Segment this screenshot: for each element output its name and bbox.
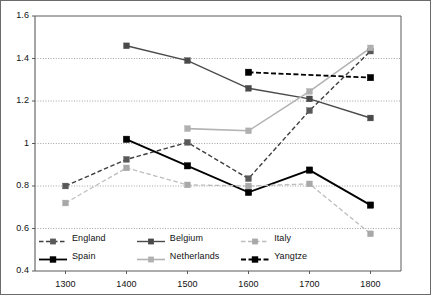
- data-point-italy-1700: [307, 181, 313, 187]
- legend-swatch-netherlands-icon: [137, 251, 165, 262]
- data-point-yangtze-1800: [367, 74, 373, 80]
- legend-label: Belgium: [170, 233, 203, 243]
- data-point-belgium-1600: [246, 85, 252, 91]
- data-point-netherlands-1700: [307, 89, 313, 95]
- legend-row: SpainNetherlandsYangtze: [39, 247, 339, 265]
- data-point-spain-1600: [245, 189, 251, 195]
- legend-item-netherlands[interactable]: Netherlands: [137, 251, 241, 262]
- legend-row: EnglandBelgiumItaly: [39, 229, 339, 247]
- legend-swatch-italy-icon: [241, 233, 269, 244]
- data-point-belgium-1400: [124, 43, 130, 49]
- legend-label: Spain: [72, 251, 96, 261]
- data-point-italy-1300: [63, 200, 69, 206]
- y-tick-label-1: 1: [3, 138, 29, 148]
- legend-item-spain[interactable]: Spain: [39, 251, 137, 262]
- data-point-spain-1700: [306, 167, 312, 173]
- data-point-italy-1600: [246, 183, 252, 189]
- data-point-netherlands-1500: [185, 126, 191, 132]
- x-tick-label-1400: 1400: [102, 279, 152, 289]
- legend-item-england[interactable]: England: [39, 233, 137, 244]
- data-point-netherlands-1800: [368, 45, 374, 51]
- series-line-italy: [66, 168, 371, 234]
- data-point-spain-1800: [367, 202, 373, 208]
- series-line-england: [66, 51, 371, 186]
- legend-swatch-belgium-icon: [137, 233, 165, 244]
- x-tick-label-1600: 1600: [224, 279, 274, 289]
- legend-label: Yangtze: [274, 251, 307, 261]
- data-point-spain-1400: [123, 136, 129, 142]
- legend-swatch-england-icon: [39, 233, 67, 244]
- y-tick-label-1.2: 1.2: [3, 95, 29, 105]
- x-tick-label-1500: 1500: [163, 279, 213, 289]
- data-point-england-1300: [63, 183, 69, 189]
- legend-item-yangtze[interactable]: Yangtze: [241, 251, 339, 262]
- legend-label: England: [72, 233, 106, 243]
- data-point-england-1400: [124, 157, 130, 163]
- legend-item-belgium[interactable]: Belgium: [137, 233, 241, 244]
- y-tick-label-1.6: 1.6: [3, 10, 29, 20]
- data-point-italy-1800: [368, 231, 374, 237]
- chart-container: 0.40.60.811.21.41.6 13001400150016001700…: [0, 0, 431, 295]
- data-point-england-1700: [307, 108, 313, 114]
- data-point-spain-1500: [184, 163, 190, 169]
- legend-item-italy[interactable]: Italy: [241, 233, 339, 244]
- data-point-yangtze-1600: [245, 69, 251, 75]
- x-tick-label-1800: 1800: [346, 279, 396, 289]
- x-tick-label-1300: 1300: [41, 279, 91, 289]
- chart-legend: EnglandBelgiumItalySpainNetherlandsYangt…: [39, 229, 339, 265]
- data-point-italy-1500: [185, 182, 191, 188]
- data-point-italy-1400: [124, 165, 130, 171]
- data-point-england-1600: [246, 176, 252, 182]
- data-point-belgium-1800: [368, 115, 374, 121]
- legend-swatch-spain-icon: [39, 251, 67, 262]
- x-tick-label-1700: 1700: [285, 279, 335, 289]
- series-line-netherlands: [188, 48, 371, 131]
- y-tick-label-1.4: 1.4: [3, 53, 29, 63]
- y-tick-label-0.8: 0.8: [3, 180, 29, 190]
- legend-swatch-yangtze-icon: [241, 251, 269, 262]
- y-tick-label-0.6: 0.6: [3, 223, 29, 233]
- legend-label: Italy: [274, 233, 291, 243]
- data-point-england-1500: [185, 140, 191, 146]
- y-tick-label-0.4: 0.4: [3, 265, 29, 275]
- data-point-netherlands-1600: [246, 128, 252, 134]
- legend-label: Netherlands: [170, 251, 220, 261]
- series-line-belgium: [127, 46, 371, 118]
- series-line-yangtze: [249, 72, 371, 77]
- data-point-belgium-1700: [307, 96, 313, 102]
- data-point-belgium-1500: [185, 58, 191, 64]
